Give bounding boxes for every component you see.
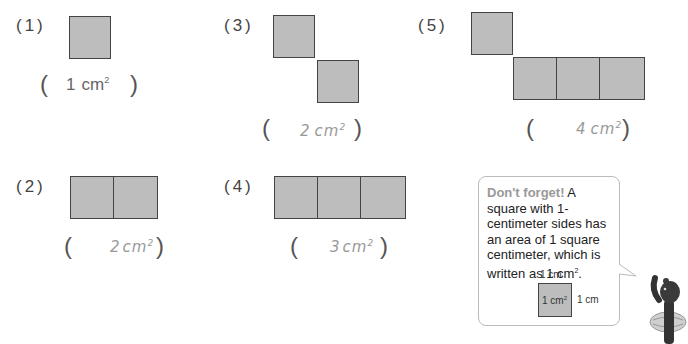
unit-square [69,16,111,59]
open-paren: ( [290,232,298,260]
close-paren: ) [380,232,388,260]
bear-mascot-icon [643,270,688,344]
tip-heading: Don't forget! [487,185,564,200]
close-paren: ) [130,70,138,98]
problem-4-label: (4) [224,177,254,197]
bubble-tail-icon [618,262,638,282]
unit-square [471,12,513,55]
diagram-unit-square: 1 cm2 [538,283,572,317]
close-paren: ) [156,232,164,260]
problem-4-answer: 3cm2 [330,238,374,256]
unit-square [599,57,645,100]
close-paren: ) [622,114,630,142]
open-paren: ( [262,114,270,142]
diagram-top-label: 1 cm [540,269,562,280]
diagram-side-label: 1 cm [577,294,599,305]
problem-5-label: (5) [418,16,448,36]
open-paren: ( [526,114,534,142]
problem-3-answer: 2cm2 [300,122,346,140]
unit-square [317,60,359,103]
unit-square [274,176,319,219]
unit-square [70,176,115,219]
unit-square [360,176,406,219]
unit-square [556,57,601,100]
open-paren: ( [40,70,48,98]
diagram-center-label: 1 cm2 [542,295,567,306]
problem-2-label: (2) [16,177,46,197]
problem-3-label: (3) [224,16,254,36]
close-paren: ) [354,114,362,142]
unit-square [273,15,315,58]
open-paren: ( [64,232,72,260]
unit-square [513,57,558,100]
problem-1-answer: 1cm2 [66,75,109,95]
tip-text: Don't forget! A square with 1-centimeter… [487,185,617,281]
problem-2-answer: 2cm2 [110,238,154,256]
unit-square [113,176,158,219]
tip-speech-bubble: Don't forget! A square with 1-centimeter… [478,176,620,326]
problem-5-answer: 4cm2 [576,120,622,138]
unit-square [317,176,362,219]
problem-1-label: (1) [16,16,46,36]
